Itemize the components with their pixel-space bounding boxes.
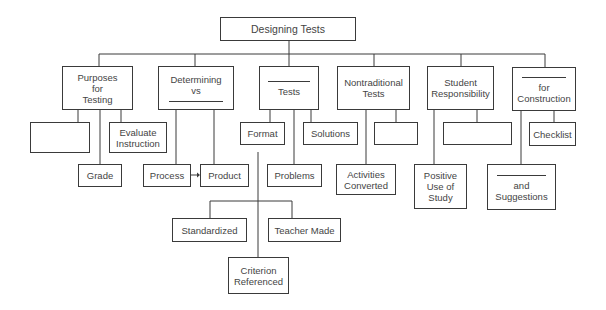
node-activities-converted: Activities Converted <box>336 164 396 195</box>
node-label: Standardized <box>182 225 238 236</box>
node-determining-vs: Determining vs <box>158 66 234 110</box>
node-product: Product <box>200 164 249 187</box>
node-tests: Tests <box>259 66 319 110</box>
node-label: Product <box>208 170 241 181</box>
fill-in-blank <box>497 175 545 176</box>
node-label: Process <box>150 170 184 181</box>
node-label: Evaluate Instruction <box>116 127 160 149</box>
node-label: Solutions <box>311 128 350 139</box>
node-process: Process <box>143 164 191 187</box>
node-positive-use-of-study: Positive Use of Study <box>414 164 467 209</box>
node-label: Determining vs <box>170 74 221 96</box>
node-purposes-for-testing: Purposes for Testing <box>62 66 133 110</box>
connector-lines <box>0 0 606 310</box>
node-student-blank <box>443 122 512 145</box>
node-grade: Grade <box>78 164 122 187</box>
node-criterion-referenced: Criterion Referenced <box>228 257 289 294</box>
node-nontraditional-tests: Nontraditional Tests <box>337 66 410 110</box>
node-label: Positive Use of Study <box>424 170 457 203</box>
node-designing-tests: Designing Tests <box>220 17 356 41</box>
node-checklist: Checklist <box>529 122 576 146</box>
node-solutions: Solutions <box>303 122 358 145</box>
node-problems: Problems <box>267 164 322 187</box>
node-for-construction: for Construction <box>512 67 576 111</box>
fill-in-blank <box>169 101 222 102</box>
node-label: Nontraditional Tests <box>344 77 403 99</box>
node-teacher-made: Teacher Made <box>268 218 341 242</box>
node-format: Format <box>240 122 285 145</box>
node-standardized: Standardized <box>172 218 247 242</box>
node-label: Tests <box>278 86 300 97</box>
node-label: Checklist <box>533 129 572 140</box>
node-purposes-blank <box>30 122 90 153</box>
fill-in-blank <box>522 77 567 78</box>
node-label: Format <box>247 128 277 139</box>
node-label: Teacher Made <box>274 225 334 236</box>
fill-in-blank <box>268 81 310 82</box>
node-evaluate-instruction: Evaluate Instruction <box>109 122 167 153</box>
node-label: and Suggestions <box>495 180 547 202</box>
node-label: for Construction <box>517 82 570 104</box>
node-label: Activities Converted <box>344 169 388 191</box>
node-label: Designing Tests <box>251 24 325 35</box>
node-and-suggestions: and Suggestions <box>487 164 556 210</box>
node-nontraditional-blank <box>374 122 418 145</box>
node-student-responsibility: Student Responsibility <box>427 66 494 110</box>
node-label: Purposes for Testing <box>77 72 117 105</box>
node-label: Grade <box>87 170 113 181</box>
node-label: Student Responsibility <box>431 77 490 99</box>
node-label: Problems <box>274 170 314 181</box>
node-label: Criterion Referenced <box>234 265 283 287</box>
